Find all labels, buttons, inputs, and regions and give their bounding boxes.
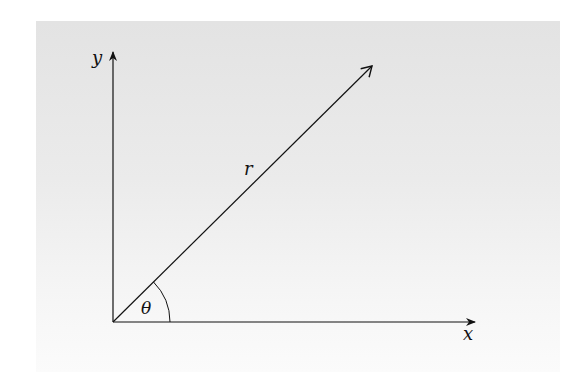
radius-label: r [244,158,254,179]
angle-label: θ [141,298,151,318]
polar-diagram: y x r θ [0,0,576,372]
angle-arc [154,282,171,322]
x-axis-label: x [463,323,473,344]
y-axis-label: y [91,47,103,68]
radius-vector [113,66,372,322]
